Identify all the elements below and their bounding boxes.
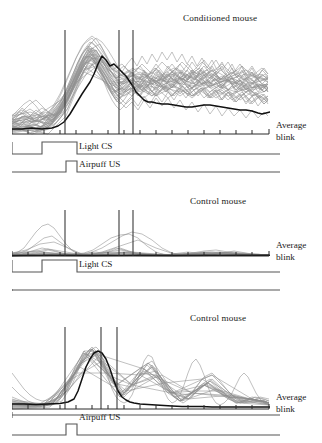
airpuff-us-pulse-conditioned: [12, 161, 280, 172]
plot-control-us: [12, 327, 270, 411]
stimulus-traces-conditioned: [12, 140, 280, 176]
panel-title-control-cs: Control mouse: [190, 196, 246, 206]
average-blink-label-line1: Average: [276, 392, 306, 404]
plot-conditioned: [12, 30, 270, 136]
panel-title-control-us: Control mouse: [190, 313, 246, 323]
average-blink-label-line1: Average: [276, 120, 306, 132]
airpuff-us-pulse-control-us: [12, 424, 280, 435]
average-blink-label-conditioned: Average blink: [276, 120, 306, 143]
light-cs-label-conditioned: Light CS: [79, 141, 112, 151]
panel-conditioned-mouse: Conditioned mouse: [0, 0, 322, 180]
light-cs-pulse-conditioned: [12, 142, 280, 154]
airpuff-us-empty-control-cs: [12, 289, 280, 291]
plot-control-cs: [12, 210, 270, 258]
trial-traces-conditioned: [12, 36, 268, 134]
stimulus-traces-control-cs: [12, 258, 280, 294]
panel-control-mouse-us: Control mouse: [0, 305, 322, 443]
trace-canvas-control-cs: [12, 210, 270, 258]
light-cs-label-control-cs: Light CS: [79, 259, 112, 269]
average-blink-label-control-us: Average blink: [276, 392, 306, 415]
average-blink-label-line2: blink: [276, 252, 306, 264]
trace-canvas-control-us: [12, 327, 270, 411]
panel-title-conditioned: Conditioned mouse: [183, 13, 257, 23]
average-blink-label-line2: blink: [276, 404, 306, 416]
airpuff-us-label-conditioned: Airpuff US: [79, 159, 120, 169]
airpuff-us-label-control-us: Airpuff US: [79, 412, 120, 422]
average-blink-label-line2: blink: [276, 132, 306, 144]
trial-traces-control-cs: [12, 224, 269, 256]
stimulus-traces-control-us: [12, 411, 280, 443]
light-cs-pulse-control-cs: [12, 260, 280, 272]
average-blink-label-control-cs: Average blink: [276, 240, 306, 263]
eyeblink-conditioning-figure: Conditioned mouse: [0, 0, 322, 443]
light-cs-empty-control-us: [12, 412, 280, 418]
trace-canvas-conditioned: [12, 30, 270, 136]
average-blink-label-line1: Average: [276, 240, 306, 252]
trial-traces-control-us: [12, 347, 269, 409]
panel-control-mouse-cs: Control mouse: [0, 188, 322, 298]
